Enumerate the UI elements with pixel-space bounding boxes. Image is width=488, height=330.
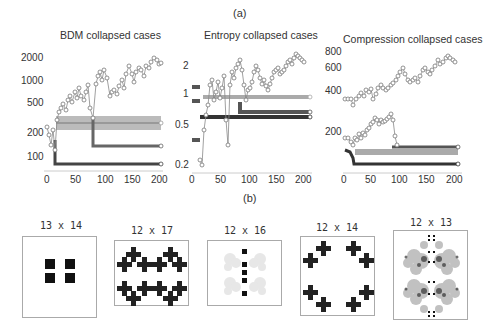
grid-title: 12 x 17 xyxy=(131,225,173,236)
grid-title: 12 x 14 xyxy=(316,222,358,233)
pattern-grid-1 xyxy=(22,236,97,318)
pattern-grid-4 xyxy=(300,236,375,316)
pattern-grid-5 xyxy=(393,230,468,320)
pattern-grid-2 xyxy=(114,240,189,306)
grid-title: 12 x 16 xyxy=(224,225,266,236)
pattern-grid-3 xyxy=(207,240,282,306)
grid-title: 12 x 13 xyxy=(410,217,452,228)
grid-title: 13 x 14 xyxy=(40,220,82,231)
